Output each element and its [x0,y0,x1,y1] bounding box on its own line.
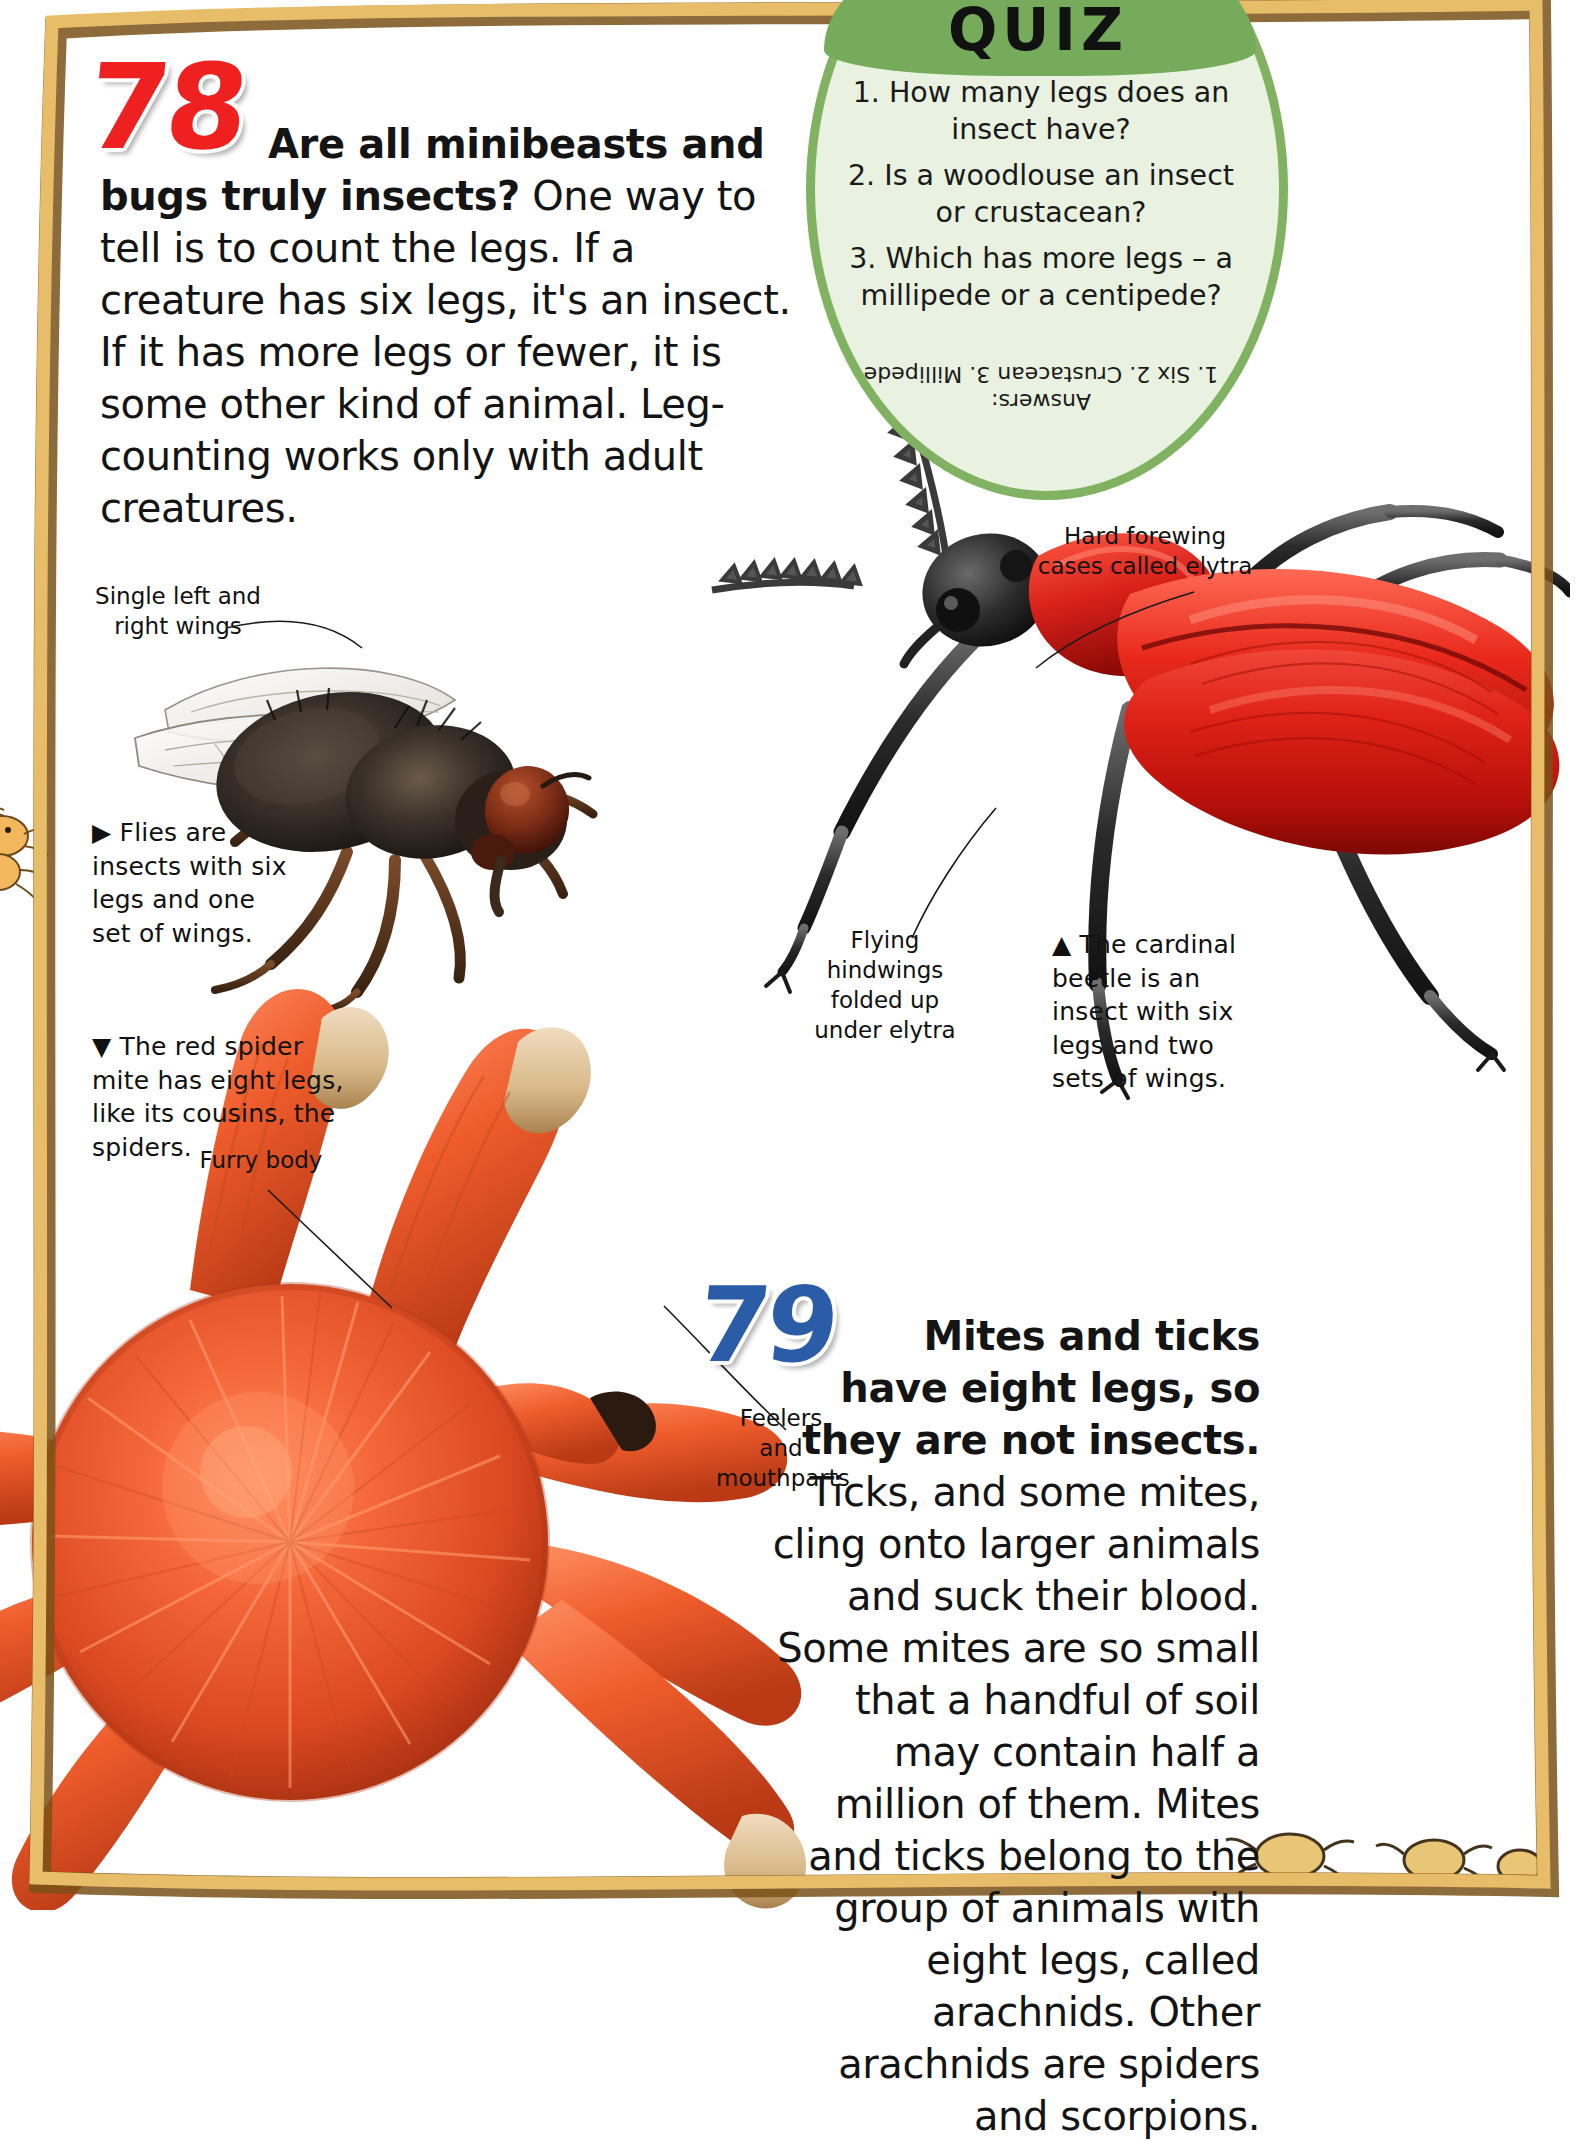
callout-flying-hindwings: Flying hindwings folded up under elytra [800,926,970,1046]
caption-fly-marker: ▶ [92,818,111,847]
caption-beetle-marker: ▲ [1052,930,1071,959]
caption-fly-text: Flies are insects with six legs and one … [92,818,287,948]
caption-beetle: ▲ The cardinal beetle is an insect with … [1052,928,1252,1096]
caption-fly: ▶ Flies are insects with six legs and on… [92,816,302,950]
fact-79-paragraph: Mites and ticks have eight legs, so they… [760,1310,1260,2142]
fact-79-body: Ticks, and some mites, cling onto larger… [773,1469,1260,2139]
caption-mite: ▼ The red spider mite has eight legs, li… [92,1030,352,1164]
fact-79-lead: Mites and ticks have eight legs, so they… [802,1313,1260,1463]
caption-beetle-text: The cardinal beetle is an insect with si… [1052,930,1236,1093]
callout-hard-forewing-cases: Hard forewing cases called elytra [1030,522,1260,582]
caption-mite-text: The red spider mite has eight legs, like… [92,1032,344,1162]
caption-mite-marker: ▼ [92,1032,111,1061]
